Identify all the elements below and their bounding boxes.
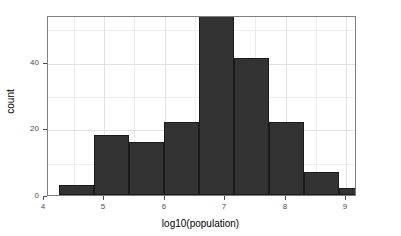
histogram-bar: [269, 122, 304, 195]
histogram-plot: 02040 456789 log10(population) count: [0, 0, 401, 236]
x-tick-mark: [43, 196, 44, 200]
plot-panel: [47, 16, 356, 196]
histogram-bar: [234, 58, 269, 195]
x-tick-mark: [103, 196, 104, 200]
x-tick-label: 7: [209, 203, 239, 211]
histogram-bar: [304, 172, 339, 195]
histogram-bar: [199, 17, 234, 195]
histogram-bar: [339, 188, 355, 195]
y-tick-mark: [43, 129, 47, 130]
bar-layer: [48, 17, 355, 195]
x-tick-mark: [285, 196, 286, 200]
y-axis-title: count: [5, 72, 16, 132]
x-tick-label: 8: [270, 203, 300, 211]
y-tick-label: 40: [15, 59, 39, 67]
y-tick-label: 0: [15, 192, 39, 200]
x-tick-label: 5: [88, 203, 118, 211]
x-tick-mark: [224, 196, 225, 200]
x-axis-title: log10(population): [0, 218, 401, 229]
y-tick-label: 20: [15, 125, 39, 133]
histogram-bar: [59, 185, 94, 195]
histogram-bar: [129, 142, 164, 195]
histogram-bar: [94, 135, 129, 195]
x-tick-label: 6: [149, 203, 179, 211]
y-tick-mark: [43, 63, 47, 64]
x-tick-mark: [164, 196, 165, 200]
x-tick-mark: [345, 196, 346, 200]
histogram-bar: [164, 122, 199, 195]
x-tick-label: 4: [28, 203, 58, 211]
x-tick-label: 9: [330, 203, 360, 211]
